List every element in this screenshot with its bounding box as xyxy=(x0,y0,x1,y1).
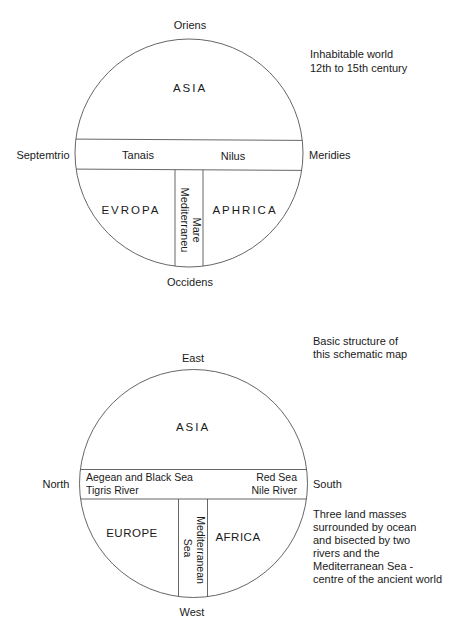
band-bottom-line xyxy=(60,169,320,171)
direction-right-label: South xyxy=(313,478,342,490)
region-europe-label: EVROPA xyxy=(101,204,160,216)
description-line-1: Three land masses xyxy=(313,508,407,520)
description-line-4: rivers and the xyxy=(313,547,380,559)
direction-right-label: Meridies xyxy=(309,149,351,161)
region-europe-label: EUROPE xyxy=(106,527,158,539)
region-asia-label: ASIA xyxy=(173,82,207,94)
diagram-schematic-structure: East North South West Basic structure of… xyxy=(43,335,442,618)
sea-label-line-2: Mediterraneu xyxy=(179,188,191,253)
band-right-label-line-1: Red Sea xyxy=(256,471,297,483)
region-africa-label: AFRICA xyxy=(215,531,260,543)
direction-left-label: Septemtrio xyxy=(16,149,69,161)
sea-label-line-1: Mare xyxy=(191,217,203,242)
region-africa-label: APHRICA xyxy=(212,204,277,216)
diagram-medieval-t-o-map: Oriens Septemtrio Meridies Occidens Inha… xyxy=(16,19,407,288)
band-left-label-line-2: Tigris River xyxy=(86,484,139,496)
description-line-6: centre of the ancient world xyxy=(313,573,442,585)
river-tanais-label: Tanais xyxy=(122,149,154,161)
t-o-map-figure: Oriens Septemtrio Meridies Occidens Inha… xyxy=(0,0,466,636)
river-nilus-label: Nilus xyxy=(221,150,246,162)
description-line-3: and bisected by two xyxy=(313,534,410,546)
diagram-title-line-1: Basic structure of xyxy=(313,335,399,347)
diagram-title-line-1: Inhabitable world xyxy=(310,48,393,60)
band-right-label-line-2: Nile River xyxy=(251,484,297,496)
direction-top-label: Oriens xyxy=(174,19,207,31)
diagram-title-line-2: 12th to 15th century xyxy=(310,62,408,74)
region-asia-label: ASIA xyxy=(176,421,210,433)
direction-top-label: East xyxy=(182,352,204,364)
sea-label-line-1: Mediterranean xyxy=(195,516,207,584)
description-line-5: Mediterranean Sea - xyxy=(313,560,414,572)
description-line-2: surrounded by ocean xyxy=(313,521,416,533)
band-left-label-line-1: Aegean and Black Sea xyxy=(86,471,193,483)
diagram-title-line-2: this schematic map xyxy=(313,348,407,360)
sea-label-line-2: Sea xyxy=(182,539,194,558)
direction-left-label: North xyxy=(43,478,70,490)
direction-bottom-label: West xyxy=(180,606,205,618)
band-top-line xyxy=(60,139,320,141)
direction-bottom-label: Occidens xyxy=(167,276,213,288)
